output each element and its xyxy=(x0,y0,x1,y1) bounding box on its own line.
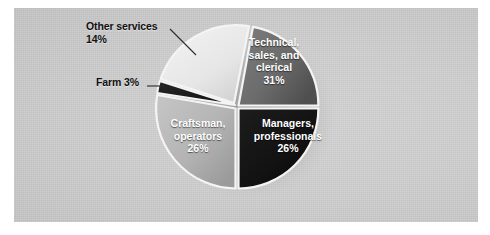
pie-chart-figure: Other services 14% Farm 3% Technical, sa… xyxy=(0,0,490,235)
slice-label-managers: Managers, professionals 26% xyxy=(240,117,336,155)
callout-label-other-services: Other services 14% xyxy=(86,20,158,45)
slice-label-craftsman: Craftsman, operators 26% xyxy=(158,117,238,155)
slice-label-technical: Technical, sales, and clerical 31% xyxy=(228,36,320,86)
callout-label-farm: Farm 3% xyxy=(96,76,139,89)
